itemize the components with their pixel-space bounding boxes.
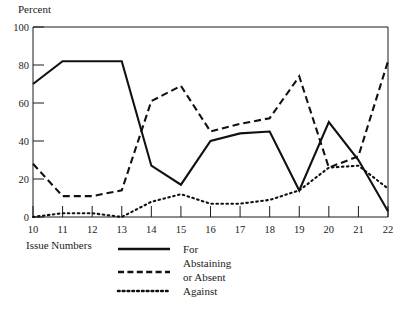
x-tick-label: 11 [58,224,68,235]
y-axis-title: Percent [18,3,51,15]
x-tick-label: 15 [176,224,187,235]
x-tick-label: 17 [235,224,246,235]
x-tick-label: 18 [264,224,275,235]
y-tick-label: 20 [19,174,30,185]
x-tick-label: 22 [383,224,394,235]
voting-percent-line-chart: Percent 100 80 60 40 20 0 10 [0,0,408,310]
legend-label-abstaining-line2: or Absent [183,271,225,283]
x-tick-label: 13 [117,224,128,235]
legend-label-abstaining-line1: Abstaining [183,257,232,269]
x-axis-title: Issue Numbers [26,239,92,251]
y-tick-label: 100 [13,22,29,33]
x-tick-label: 16 [205,224,216,235]
x-tick-label: 19 [294,224,305,235]
y-tick-label: 80 [19,60,30,71]
x-tick-label: 20 [324,224,335,235]
legend-label-for: For [183,243,199,255]
y-tick-label: 40 [19,136,30,147]
x-tick-label: 12 [87,224,98,235]
y-tick-label: 0 [24,212,29,223]
y-tick-label: 60 [19,98,30,109]
x-tick-label: 21 [353,224,364,235]
x-tick-label: 10 [28,224,39,235]
legend-label-against: Against [183,285,217,297]
x-tick-label: 14 [146,224,157,235]
